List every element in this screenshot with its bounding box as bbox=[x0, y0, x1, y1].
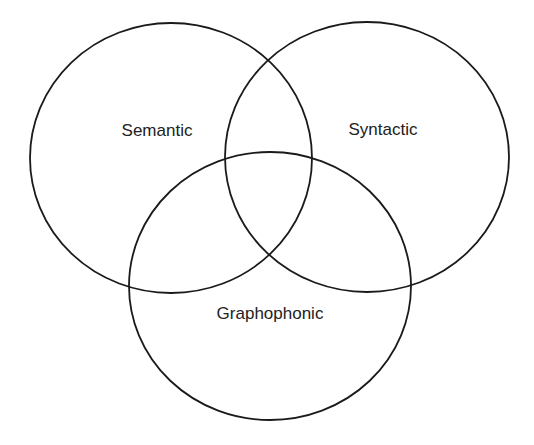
semantic-label: Semantic bbox=[122, 121, 193, 140]
graphophonic-circle bbox=[129, 152, 411, 420]
syntactic-circle bbox=[225, 22, 509, 292]
venn-diagram: Semantic Syntactic Graphophonic bbox=[0, 0, 534, 445]
graphophonic-label: Graphophonic bbox=[217, 304, 324, 323]
semantic-circle bbox=[30, 23, 312, 293]
syntactic-label: Syntactic bbox=[349, 120, 418, 139]
